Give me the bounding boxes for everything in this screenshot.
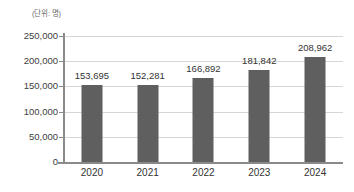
y-axis-tick bbox=[59, 86, 64, 87]
y-axis-tick-label: 100,000 bbox=[4, 107, 58, 117]
x-axis-category-label: 2020 bbox=[81, 167, 103, 179]
bar[interactable] bbox=[305, 57, 326, 162]
bar-group[interactable]: 152,2812021 bbox=[120, 0, 176, 192]
y-axis-tick-label: 150,000 bbox=[4, 81, 58, 91]
bar-group[interactable]: 208,9622024 bbox=[287, 0, 343, 192]
y-axis-tick bbox=[59, 137, 64, 138]
bar[interactable] bbox=[249, 70, 270, 162]
y-axis-tick bbox=[59, 61, 64, 62]
bars-layer: 153,6952020152,2812021166,8922022181,842… bbox=[64, 0, 343, 192]
y-axis-tick-label: 50,000 bbox=[4, 132, 58, 142]
bar-chart: (단위: 명) 050,000100,000150,000200,000250,… bbox=[0, 0, 354, 192]
y-axis-tick bbox=[59, 162, 64, 163]
bar[interactable] bbox=[137, 85, 158, 162]
y-axis-tick-label: 250,000 bbox=[4, 31, 58, 41]
bar-value-label: 181,842 bbox=[242, 55, 276, 66]
bar[interactable] bbox=[193, 78, 214, 162]
bar-value-label: 166,892 bbox=[186, 63, 220, 74]
bar-value-label: 208,962 bbox=[298, 42, 332, 53]
x-axis-category-label: 2023 bbox=[248, 167, 270, 179]
y-axis-tick bbox=[59, 36, 64, 37]
y-axis-tick-label: 200,000 bbox=[4, 56, 58, 66]
bar-group[interactable]: 153,6952020 bbox=[64, 0, 120, 192]
bar[interactable] bbox=[81, 85, 102, 162]
bar-group[interactable]: 166,8922022 bbox=[176, 0, 232, 192]
x-axis-category-label: 2024 bbox=[304, 167, 326, 179]
y-axis-tick bbox=[59, 112, 64, 113]
x-axis-category-label: 2021 bbox=[137, 167, 159, 179]
y-axis-tick-label: 0 bbox=[4, 157, 58, 167]
x-axis-category-label: 2022 bbox=[192, 167, 214, 179]
bar-group[interactable]: 181,8422023 bbox=[231, 0, 287, 192]
bar-value-label: 152,281 bbox=[131, 70, 165, 81]
bar-value-label: 153,695 bbox=[75, 70, 109, 81]
y-axis-labels: 050,000100,000150,000200,000250,000 bbox=[0, 0, 58, 192]
